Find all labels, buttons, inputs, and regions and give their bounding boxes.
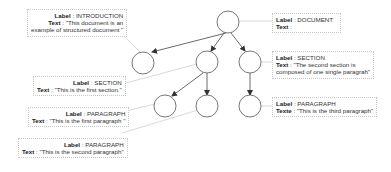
node-paragraph2 [196,95,218,117]
label-box-paragraph2: Label : PARAGRAPH Text : "This is the se… [18,138,128,158]
node-paragraph3 [239,95,261,117]
node-introduction [132,52,154,74]
label-box-section1: Label : SECTION Text : "This is the firs… [33,76,126,96]
label-box-introduction: Label : INTRODUCTION Text : "This docume… [27,9,127,37]
label-box-paragraph1: Label : PARAGRAPH Text : "This is the fi… [28,107,129,127]
node-section1 [196,51,218,73]
label-box-document: Label : DOCUMENT Text : [272,13,341,33]
label-box-section2: Label : SECTION Text : "The second secti… [272,51,374,79]
node-paragraph1 [154,95,176,117]
label-box-paragraph3: Label : PARAGRAPH Texte : "This is the t… [272,97,377,117]
node-section2 [239,51,261,73]
node-document [217,11,239,33]
